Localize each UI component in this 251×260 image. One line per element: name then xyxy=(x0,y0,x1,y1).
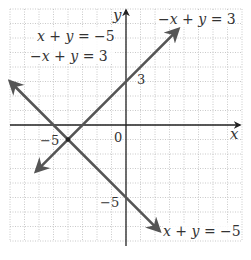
system-equation-1: x + y = −5 xyxy=(37,28,115,44)
coordinate-plane: x y −5 0 3 −5 x + y = −5 −x + y = 3 −x +… xyxy=(0,0,251,260)
tick-label-y-3: 3 xyxy=(137,72,145,87)
line-x-plus-y-eq-neg5 xyxy=(10,82,159,231)
line-label-neg-x-plus-y-eq-3: −x + y = 3 xyxy=(158,11,236,27)
axis-label-x: x xyxy=(230,125,239,143)
axis-label-y: y xyxy=(112,6,122,24)
tick-label-x-neg5: −5 xyxy=(40,133,59,148)
tick-label-origin: 0 xyxy=(114,130,122,145)
intersection-point xyxy=(66,137,70,141)
system-equation-2: −x + y = 3 xyxy=(30,48,108,64)
line-label-x-plus-y-eq-neg5: x + y = −5 xyxy=(163,223,241,239)
tick-label-y-neg5: −5 xyxy=(100,195,119,210)
